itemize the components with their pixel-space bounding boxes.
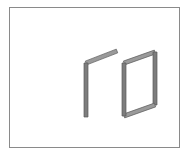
bent-bar-left-segment-0: [85, 49, 117, 65]
quad-frame-right-segment-0: [123, 50, 155, 65]
bent-bar-left-segment-1: [84, 63, 88, 117]
quad-frame-right-segment-2: [123, 103, 155, 118]
figure-canvas: [0, 0, 189, 156]
shape-bent-bar-left: [84, 49, 118, 117]
figure-root: [0, 0, 189, 156]
quad-frame-right-segment-1: [153, 52, 157, 105]
quad-frame-right-segment-3: [122, 63, 126, 116]
shape-quad-frame-right: [122, 50, 157, 118]
